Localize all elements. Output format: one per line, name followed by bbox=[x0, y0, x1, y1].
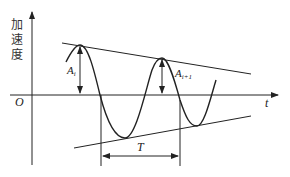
amplitude-label-second: Ai+1 bbox=[174, 67, 192, 81]
y-axis-label-char-1: 加 bbox=[11, 18, 23, 32]
oscillation-curve bbox=[66, 45, 216, 138]
amplitude-label-first: Ai bbox=[66, 64, 76, 78]
y-axis-label-char-2: 速 bbox=[11, 33, 23, 47]
damped-oscillation-diagram: 加 速 度 O t Ai Ai+1 T bbox=[0, 0, 290, 177]
period-label: T bbox=[137, 140, 145, 154]
x-axis-label: t bbox=[265, 96, 269, 110]
origin-label: O bbox=[15, 95, 24, 109]
y-axis-label-char-3: 度 bbox=[11, 47, 23, 62]
